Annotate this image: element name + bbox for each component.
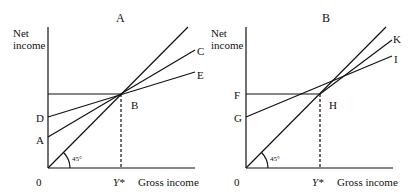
- panel-b-angle-label: 45°: [270, 153, 280, 165]
- panel-b-intersection-label: H: [329, 99, 337, 111]
- panel-a-intersection-label: B: [131, 99, 138, 111]
- panel-b-line-i: [246, 56, 392, 117]
- panel-a-line-label-c: C: [197, 45, 204, 57]
- panel-a-graphics: [48, 27, 195, 168]
- panel-b-angle-arc: [262, 153, 269, 169]
- panel-b-y-axis-label-line1: Net: [211, 27, 227, 39]
- panel-b-x-axis-label: Gross income: [337, 176, 398, 188]
- panel-a-origin-label: 0: [36, 176, 42, 188]
- panel-b-ystar-label: Y*: [312, 176, 324, 188]
- panel-a-y-axis-label-line2: income: [13, 39, 45, 51]
- panel-b-origin-label: 0: [234, 176, 240, 188]
- panel-a-title: A: [116, 12, 125, 24]
- panel-a-angle-label: 45°: [72, 153, 82, 165]
- panel-a-intercept-label-a: A: [36, 134, 44, 146]
- panel-b-intercept-label-f: F: [234, 89, 240, 101]
- panel-a-y-axis-label-line1: Net: [13, 27, 29, 39]
- panel-b-graphics: [246, 27, 393, 168]
- panel-b-intercept-label-g: G: [234, 112, 242, 124]
- panel-a-angle-arc: [64, 153, 71, 169]
- panel-b-line-k: [320, 40, 392, 94]
- panel-b-title: B: [322, 12, 330, 24]
- diagram-canvas: [0, 0, 418, 195]
- panel-a-ystar-label: Y*: [113, 176, 125, 188]
- panel-a-45-degree-line: [48, 27, 188, 168]
- panel-b-line-top: [246, 27, 386, 168]
- panel-a-x-axis-label: Gross income: [138, 176, 199, 188]
- panel-a-intercept-label-d: D: [36, 112, 44, 124]
- panel-b-y-axis-label-line2: income: [211, 39, 243, 51]
- panel-a-line-label-e: E: [197, 69, 204, 81]
- panel-b-line-label-i: I: [394, 53, 398, 65]
- panel-b-line-label-k: K: [393, 33, 401, 45]
